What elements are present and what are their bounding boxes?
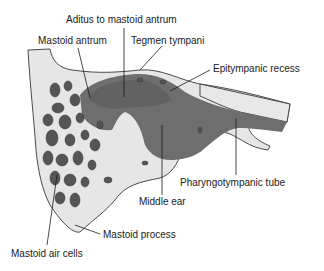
label-pharyngotympanic-tube: Pharyngotympanic tube xyxy=(180,177,285,189)
label-mastoid-air-cells: Mastoid air cells xyxy=(11,248,83,260)
label-tegmen-tympani: Tegmen tympani xyxy=(131,35,204,47)
leader-tegmen-tympani xyxy=(140,46,162,70)
middle-ear-diagram: Aditus to mastoid antrum Mastoid antrum … xyxy=(0,0,324,271)
label-aditus-to-mastoid-antrum: Aditus to mastoid antrum xyxy=(66,14,177,26)
label-mastoid-antrum: Mastoid antrum xyxy=(38,35,107,47)
label-mastoid-process: Mastoid process xyxy=(103,229,176,241)
label-middle-ear: Middle ear xyxy=(139,196,186,208)
label-epitympanic-recess: Epitympanic recess xyxy=(213,63,300,75)
